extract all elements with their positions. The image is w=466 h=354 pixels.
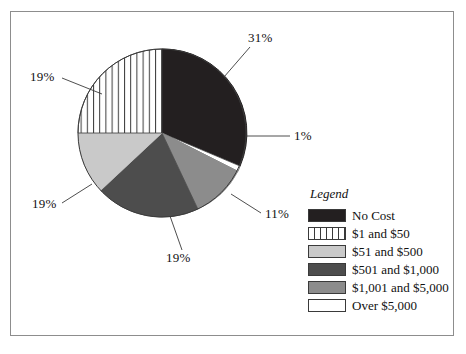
legend-label-over-5000: Over $5,000 [352, 298, 417, 314]
pie-label-11: 11% [265, 206, 289, 222]
leader-line-19-left-lower [62, 184, 92, 203]
legend-item-51-500: $51 and $500 [308, 243, 448, 260]
legend-label-1001-5000: $1,001 and $5,000 [352, 280, 449, 296]
legend-label-1-50: $1 and $50 [352, 226, 410, 242]
legend-swatch-1001-5000 [308, 281, 346, 294]
legend-swatch-51-500 [308, 245, 346, 258]
pie-label-19-left-lower: 19% [32, 196, 57, 212]
legend-label-51-500: $51 and $500 [352, 244, 423, 260]
pie-label-1: 1% [294, 128, 312, 144]
leader-line-31 [224, 47, 250, 77]
legend-swatch-501-1000 [308, 263, 346, 276]
leader-line-19-bottom [170, 216, 182, 250]
legend-swatch-1-50 [308, 227, 346, 240]
legend-label-501-1000: $501 and $1,000 [352, 262, 439, 278]
pie-slice-1-50 [78, 49, 162, 133]
legend: Legend No Cost $1 and $50 $51 and $500 $… [308, 186, 448, 315]
legend-swatch-no-cost [308, 209, 346, 222]
legend-item-501-1000: $501 and $1,000 [308, 261, 448, 278]
pie-label-19-bottom: 19% [166, 250, 191, 266]
leader-line-11 [231, 194, 261, 213]
legend-item-1-50: $1 and $50 [308, 225, 448, 242]
legend-swatch-over-5000 [308, 299, 346, 312]
pie-label-19-left-upper: 19% [30, 69, 55, 85]
legend-label-no-cost: No Cost [352, 208, 395, 224]
pie-label-31: 31% [248, 30, 273, 46]
legend-item-over-5000: Over $5,000 [308, 297, 448, 314]
legend-title: Legend [310, 186, 448, 202]
legend-item-no-cost: No Cost [308, 207, 448, 224]
legend-item-1001-5000: $1,001 and $5,000 [308, 279, 448, 296]
